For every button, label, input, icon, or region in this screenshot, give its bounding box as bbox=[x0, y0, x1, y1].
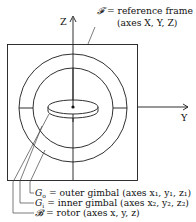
z-axis-label: Z bbox=[60, 16, 67, 27]
gyroscope-diagram: Z Y 𝓕 = reference frame (axes X, Y, Z) G… bbox=[0, 0, 196, 222]
reference-frame-label: 𝓕 = reference frame bbox=[97, 5, 193, 16]
reference-frame-axes: (axes X, Y, Z) bbox=[117, 17, 177, 28]
y-axis-label: Y bbox=[180, 112, 188, 123]
reference-frame-leader bbox=[88, 27, 95, 44]
rotor-label: 𝓑 = rotor (axes x, y, z) bbox=[35, 207, 140, 218]
